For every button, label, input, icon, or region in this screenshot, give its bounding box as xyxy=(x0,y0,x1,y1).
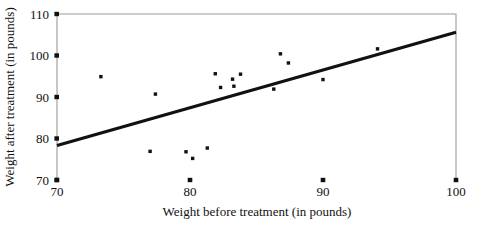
y-axis-tick-label: 90 xyxy=(36,90,49,105)
data-point xyxy=(321,78,324,81)
y-axis-tick-labels: 708090100110 xyxy=(30,7,50,188)
y-axis-tick-label: 100 xyxy=(30,48,50,63)
data-point xyxy=(184,150,187,153)
x-axis-tick-mark xyxy=(55,178,60,182)
y-axis-tick-mark xyxy=(54,95,59,99)
data-point xyxy=(232,85,235,88)
y-axis-tick-label: 80 xyxy=(36,131,49,146)
regression-line xyxy=(57,32,456,145)
plot-frame xyxy=(57,14,456,180)
x-axis-tick-mark xyxy=(188,178,193,182)
data-point xyxy=(148,150,151,153)
y-axis-tick-mark xyxy=(54,12,59,16)
y-axis-tick-label: 110 xyxy=(30,7,49,22)
data-points-group xyxy=(99,47,379,160)
x-axis-title: Weight before treatment (in pounds) xyxy=(163,204,352,219)
x-axis-tick-label: 80 xyxy=(184,184,197,199)
data-point xyxy=(154,92,157,95)
y-axis-tick-label: 70 xyxy=(36,173,49,188)
data-point xyxy=(231,77,234,80)
y-axis-title: Weight after treatment (in pounds) xyxy=(2,7,17,186)
data-point xyxy=(279,52,282,55)
plot-frame-border xyxy=(57,14,456,180)
x-axis-tick-label: 90 xyxy=(317,184,330,199)
x-axis-tick-mark xyxy=(454,178,459,182)
scatter-plot-figure: 708090100110 708090100 Weight before tre… xyxy=(0,0,481,226)
data-point xyxy=(376,47,379,50)
data-point xyxy=(206,146,209,149)
x-axis-tick-group xyxy=(55,178,459,182)
data-point xyxy=(99,75,102,78)
data-point xyxy=(239,72,242,75)
data-point xyxy=(219,86,222,89)
scatter-plot-canvas: 708090100110 708090100 Weight before tre… xyxy=(0,0,481,226)
x-axis-tick-labels: 708090100 xyxy=(51,184,466,199)
data-point xyxy=(287,61,290,64)
x-axis-tick-label: 70 xyxy=(51,184,64,199)
x-axis-tick-label: 100 xyxy=(446,184,466,199)
y-axis-tick-mark xyxy=(54,53,59,57)
y-axis-tick-mark xyxy=(54,136,59,140)
data-point xyxy=(272,87,275,90)
x-axis-tick-mark xyxy=(321,178,326,182)
data-point xyxy=(214,72,217,75)
data-point xyxy=(191,157,194,160)
